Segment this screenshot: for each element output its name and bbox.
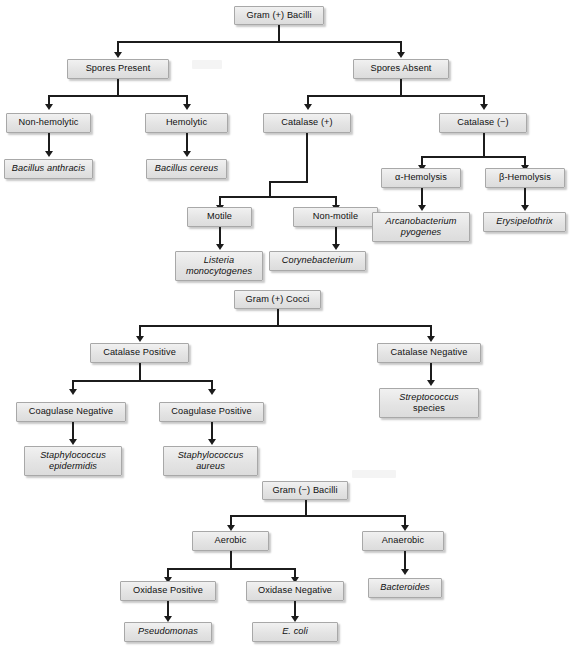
node-ecoli[interactable]: E. coli: [252, 622, 338, 642]
connector-vertical: [483, 133, 485, 157]
connector-vertical: [421, 188, 423, 206]
connector-vertical: [139, 363, 141, 381]
node-label: Streptococcus species: [383, 392, 475, 415]
arrowhead: [183, 104, 191, 110]
arrowhead: [208, 389, 216, 395]
connector-vertical: [230, 551, 232, 569]
arrowhead: [216, 244, 224, 250]
node-label: Corynebacterium: [273, 255, 362, 266]
node-beta-hemolysis[interactable]: β-Hemolysis: [485, 168, 565, 188]
arrowhead: [45, 151, 53, 157]
node-coagulase-negative[interactable]: Coagulase Negative: [16, 402, 126, 422]
node-non-hemolytic[interactable]: Non-hemolytic: [6, 113, 91, 133]
scan-artifact: [352, 470, 396, 478]
arrowhead: [427, 336, 435, 342]
node-streptococcus-species[interactable]: Streptococcus species: [379, 388, 479, 418]
node-motile[interactable]: Motile: [187, 207, 252, 227]
node-oxidase-negative[interactable]: Oxidase Negative: [246, 581, 344, 601]
flowchart-canvas: Gram (+) Bacilli Spores Present Spores A…: [0, 0, 570, 646]
connector-vertical: [404, 551, 406, 570]
node-alpha-hemolysis[interactable]: α-Hemolysis: [381, 168, 461, 188]
arrowhead: [114, 52, 122, 58]
connector-horizontal: [117, 41, 400, 43]
node-bacillus-anthracis[interactable]: Bacillus anthracis: [4, 159, 93, 179]
connector-vertical: [430, 363, 432, 381]
connector-horizontal: [48, 95, 187, 97]
node-label: Hemolytic: [149, 117, 224, 128]
connector-horizontal: [72, 380, 212, 382]
node-label: Staphylococcus epidermidis: [28, 450, 118, 473]
node-gram-positive-bacilli[interactable]: Gram (+) Bacilli: [234, 6, 324, 25]
connector-horizontal: [219, 196, 336, 198]
arrowhead: [521, 205, 529, 211]
arrowhead: [480, 104, 488, 110]
connector-vertical: [219, 227, 221, 245]
node-oxidase-positive[interactable]: Oxidase Positive: [120, 581, 216, 601]
arrowhead: [304, 104, 312, 110]
node-anaerobic[interactable]: Anaerobic: [362, 531, 444, 551]
node-staphylococcus-aureus[interactable]: Staphylococcus aureus: [163, 446, 258, 476]
node-spores-absent[interactable]: Spores Absent: [353, 59, 449, 79]
node-label: Coagulase Positive: [163, 406, 260, 417]
node-label: β-Hemolysis: [489, 172, 561, 183]
node-label: Bacillus cereus: [150, 163, 223, 174]
node-listeria-monocytogenes[interactable]: Listeria monocytogenes: [175, 251, 263, 281]
node-label: Spores Present: [71, 63, 165, 74]
connector-horizontal: [421, 156, 525, 158]
connector-vertical: [524, 188, 526, 206]
arrowhead: [401, 569, 409, 575]
node-catalase-positive[interactable]: Catalase (+): [263, 113, 351, 133]
arrowhead: [136, 336, 144, 342]
connector-vertical: [335, 227, 337, 245]
node-pseudomonas[interactable]: Pseudomonas: [124, 622, 212, 642]
node-label: α-Hemolysis: [385, 172, 457, 183]
node-erysipelothrix[interactable]: Erysipelothrix: [483, 212, 566, 232]
arrowhead: [45, 104, 53, 110]
connector-vertical: [306, 133, 308, 182]
node-aerobic[interactable]: Aerobic: [192, 531, 269, 551]
connector-horizontal: [269, 181, 308, 183]
node-gram-negative-bacilli[interactable]: Gram (−) Bacilli: [262, 481, 348, 500]
connector-vertical: [400, 79, 402, 96]
node-arcanobacterium-pyogenes[interactable]: Arcanobacterium pyogenes: [372, 212, 470, 242]
scan-artifact: [192, 60, 222, 69]
arrowhead: [183, 151, 191, 157]
node-label: Gram (+) Bacilli: [238, 10, 320, 21]
node-label: Oxidase Negative: [250, 585, 340, 596]
node-label: Coagulase Negative: [20, 406, 122, 417]
node-catalase-negative[interactable]: Catalase (−): [439, 113, 527, 133]
node-spores-present[interactable]: Spores Present: [67, 59, 169, 79]
node-bacteroides[interactable]: Bacteroides: [368, 578, 442, 598]
connector-vertical: [48, 133, 50, 152]
node-label: E. coli: [256, 626, 334, 637]
connector-horizontal: [307, 95, 484, 97]
node-label: Gram (−) Bacilli: [266, 485, 344, 496]
node-hemolytic[interactable]: Hemolytic: [145, 113, 228, 133]
node-catalase-positive-cocci[interactable]: Catalase Positive: [90, 343, 189, 363]
connector-horizontal: [167, 568, 295, 570]
node-label: Motile: [191, 211, 248, 222]
connector-vertical: [294, 601, 296, 617]
connector-vertical: [186, 133, 188, 152]
node-label: Non-motile: [297, 211, 374, 222]
arrowhead: [332, 244, 340, 250]
arrowhead: [397, 52, 405, 58]
node-gram-positive-cocci[interactable]: Gram (+) Cocci: [234, 290, 321, 309]
connector-horizontal: [139, 325, 432, 327]
connector-vertical: [117, 79, 119, 96]
connector-vertical: [167, 601, 169, 617]
connector-vertical: [305, 500, 307, 516]
node-label: Catalase Negative: [381, 347, 477, 358]
node-label: Spores Absent: [357, 63, 445, 74]
connector-vertical: [277, 309, 279, 326]
node-label: Anaerobic: [366, 535, 440, 546]
node-label: Bacteroides: [372, 582, 438, 593]
node-label: Catalase Positive: [94, 347, 185, 358]
node-non-motile[interactable]: Non-motile: [293, 207, 378, 227]
node-label: Oxidase Positive: [124, 585, 212, 596]
node-bacillus-cereus[interactable]: Bacillus cereus: [146, 159, 227, 179]
node-coagulase-positive[interactable]: Coagulase Positive: [159, 402, 264, 422]
node-staphylococcus-epidermidis[interactable]: Staphylococcus epidermidis: [24, 446, 122, 476]
node-corynebacterium[interactable]: Corynebacterium: [269, 251, 366, 271]
node-catalase-negative-cocci[interactable]: Catalase Negative: [377, 343, 481, 363]
